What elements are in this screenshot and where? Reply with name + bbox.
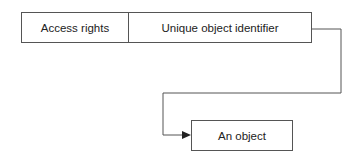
- arrow-right-icon: [182, 131, 191, 139]
- object-box: An object: [191, 120, 293, 151]
- connector-arrow: [0, 0, 359, 163]
